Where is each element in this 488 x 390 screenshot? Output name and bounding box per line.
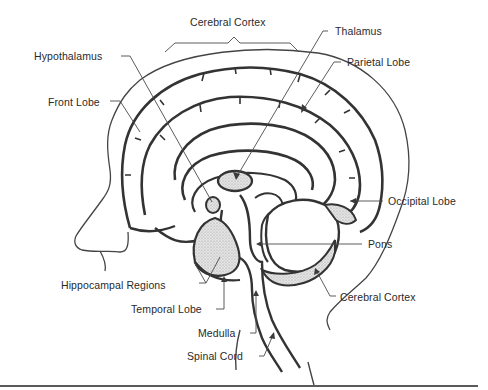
cerebellum — [262, 200, 356, 286]
label-hippocampal-regions: Hippocampal Regions — [61, 279, 166, 291]
label-parietal-lobe: Parietal Lobe — [347, 56, 410, 68]
arrow-head-icon — [253, 290, 259, 296]
label-spinal-cord: Spinal Cord — [187, 350, 243, 362]
frontal-lower-outline — [130, 226, 200, 242]
label-cerebral-cortex-top: Cerebral Cortex — [190, 16, 266, 28]
bottom-divider — [0, 385, 478, 387]
label-thalamus: Thalamus — [335, 25, 382, 37]
arrow-head-icon — [269, 332, 275, 339]
arrow-head-icon — [350, 198, 356, 204]
label-front-lobe: Front Lobe — [48, 96, 100, 108]
label-temporal-lobe: Temporal Lobe — [131, 303, 202, 315]
label-medulla: Medulla — [198, 327, 235, 339]
arrow-head-icon — [256, 241, 262, 247]
brain-diagram: Cerebral Cortex Thalamus Hypothalamus Pa… — [0, 0, 488, 390]
label-cerebral-cortex-bottom: Cerebral Cortex — [340, 291, 416, 303]
label-hypothalamus: Hypothalamus — [34, 50, 102, 62]
label-pons: Pons — [368, 238, 392, 250]
hypothalamus-structure — [206, 197, 220, 213]
label-occipital-lobe: Occipital Lobe — [388, 195, 456, 207]
lip-outline-icon — [100, 251, 105, 271]
